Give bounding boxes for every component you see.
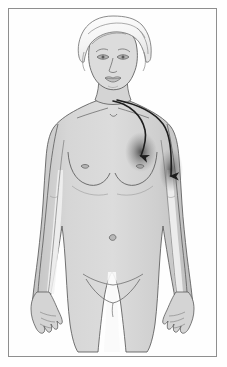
navel [109, 235, 116, 241]
pupil-right [122, 56, 125, 59]
figure-body-group [31, 16, 194, 352]
pupil-left [102, 56, 105, 59]
shadow-blob-breast [125, 132, 157, 172]
medical-illustration-figure: Line drawing of a woman facing forward w… [0, 0, 227, 367]
nipple-left [81, 165, 89, 169]
figure-illustration [0, 0, 227, 367]
